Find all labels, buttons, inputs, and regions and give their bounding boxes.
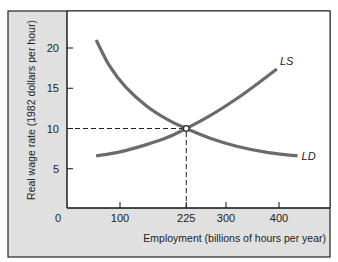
plot-area [67,11,330,208]
x-tick-label: 100 [111,212,129,224]
x-tick-label: 225 [177,212,195,224]
equilibrium-marker [183,126,189,132]
ld-curve-label: LD [302,150,316,162]
origin-label: 0 [55,212,61,224]
y-tick-label: 20 [47,42,59,54]
x-tick-label: 400 [270,212,288,224]
x-tick-label: 300 [217,212,235,224]
y-tick-label: 10 [47,123,59,135]
y-tick-label: 15 [47,82,59,94]
equilibrium-point [183,126,189,132]
y-tick-label: 5 [53,163,59,175]
x-axis-title: Employment (billions of hours per year) [143,232,326,244]
ls-curve-label: LS [280,55,294,67]
labor-market-chart: 5101520 100225300400 LDLS 0 Real wage ra… [0,0,338,262]
y-axis-title: Real wage rate (1982 dollars per hour) [25,20,37,200]
